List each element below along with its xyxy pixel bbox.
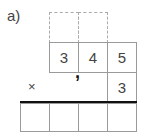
- decimal-comma-bottom: ,: [75, 124, 80, 135]
- decimal-comma-top: ,: [75, 63, 80, 81]
- carry-cell-1[interactable]: [49, 12, 79, 43]
- result-cell-4[interactable]: [107, 103, 137, 132]
- carry-cell-2[interactable]: [78, 12, 108, 43]
- multiplicand-digit-3: 5: [107, 42, 137, 73]
- multiplicand-digit-2: 4: [78, 42, 108, 73]
- exercise-label: a): [7, 7, 20, 24]
- multiply-sign: ×: [28, 79, 36, 94]
- multiplier-digit: 3: [107, 72, 137, 103]
- result-cell-1[interactable]: [20, 103, 50, 132]
- result-cell-3[interactable]: [78, 103, 108, 132]
